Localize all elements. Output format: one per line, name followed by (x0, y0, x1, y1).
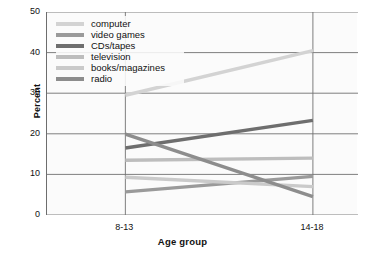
x-tick-label: 8-13 (101, 222, 147, 232)
legend-swatch-icon (56, 33, 84, 37)
legend-item[interactable]: books/magazines (56, 62, 184, 73)
legend-swatch-icon (56, 44, 84, 48)
legend-swatch-icon (56, 22, 84, 26)
y-tick-label: 10 (14, 169, 40, 178)
legend-item-label: video games (91, 29, 145, 40)
y-tick-label: 30 (14, 88, 40, 97)
legend-item[interactable]: video games (56, 29, 184, 40)
y-tick-label: 20 (14, 129, 40, 138)
legend-item[interactable]: television (56, 51, 184, 62)
legend-swatch-icon (56, 55, 84, 59)
legend-swatch-icon (56, 77, 84, 81)
legend-item-label: computer (91, 18, 131, 29)
legend-item-label: television (91, 51, 131, 62)
legend-item[interactable]: computer (56, 18, 184, 29)
y-axis-tick-labels: 01020304050 (14, 0, 40, 258)
legend-item-label: radio (91, 73, 112, 84)
chart-legend: computervideo gamesCDs/tapestelevisionbo… (56, 16, 184, 86)
series-line-radio (125, 134, 313, 197)
y-tick-label: 40 (14, 48, 40, 57)
legend-swatch-icon (56, 66, 84, 70)
y-tick-label: 50 (14, 7, 40, 16)
y-tick-label: 0 (14, 210, 40, 219)
x-tick-label: 14-18 (289, 222, 335, 232)
legend-item-label: books/magazines (91, 62, 165, 73)
x-axis-title: Age group (0, 236, 365, 247)
chart-container: Percent 01020304050 8-1314-18 Age group … (0, 0, 365, 258)
series-line-television (125, 158, 313, 160)
legend-item[interactable]: radio (56, 73, 184, 84)
legend-item[interactable]: CDs/tapes (56, 40, 184, 51)
legend-item-label: CDs/tapes (91, 40, 135, 51)
